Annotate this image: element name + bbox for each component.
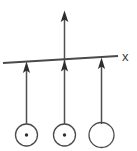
- conductor-center-current-dot-icon: [63, 133, 66, 136]
- physics-field-diagram-svg: x: [0, 0, 137, 151]
- x-axis-label: x: [122, 49, 129, 64]
- physics-diagram-canvas: x: [0, 0, 137, 151]
- conductor-left-current-dot-icon: [25, 133, 28, 136]
- conductor-right-circle: [89, 123, 114, 148]
